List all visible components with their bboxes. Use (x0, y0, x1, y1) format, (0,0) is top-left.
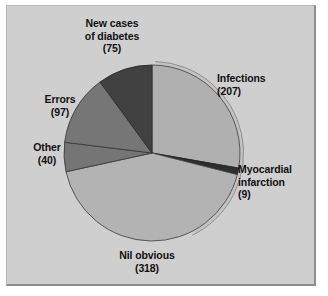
pie-label-errors: Errors (97) (24, 93, 96, 118)
pie-label-value: (318) (92, 262, 202, 275)
pie-label-new-cases-of-diabetes: New cases of diabetes (75) (66, 17, 158, 55)
pie-label-nil-obvious: Nil obvious (318) (92, 249, 202, 274)
pie-label-line: Infections (217, 72, 303, 85)
pie-label-line: Myocardial (238, 163, 324, 176)
pie-label-other: Other (40) (14, 141, 80, 166)
pie-label-line: Other (14, 141, 80, 154)
pie-label-line: Errors (24, 93, 96, 106)
pie-label-value: (97) (24, 106, 96, 119)
pie-label-infections: Infections (207) (217, 72, 303, 97)
pie-label-line: New cases (66, 17, 158, 30)
pie-label-line: of diabetes (66, 30, 158, 43)
pie-label-line: Nil obvious (92, 249, 202, 262)
pie-label-myocardial-infarction: Myocardial infarction (9) (238, 163, 324, 201)
pie-label-value: (40) (14, 154, 80, 167)
pie-label-value: (207) (217, 85, 303, 98)
chart-figure: New cases of diabetes (75) Infections (2… (0, 0, 328, 296)
pie-label-value: (9) (238, 188, 324, 201)
pie-label-value: (75) (66, 42, 158, 55)
pie-label-line: infarction (238, 176, 324, 189)
